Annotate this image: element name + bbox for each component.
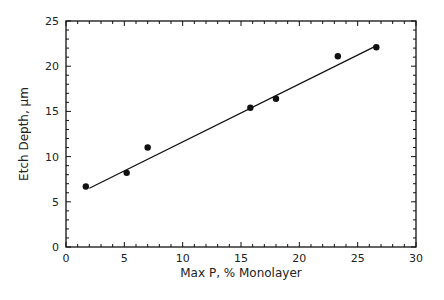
data-point <box>247 105 253 111</box>
data-point <box>335 53 341 59</box>
data-point <box>83 183 89 189</box>
x-tick-label: 25 <box>351 252 365 265</box>
x-tick-labels: 051015202530 <box>63 252 424 265</box>
fit-line <box>89 46 375 188</box>
data-point <box>144 144 150 150</box>
x-tick-label: 0 <box>63 252 70 265</box>
axis-ticks <box>66 21 416 247</box>
x-tick-label: 15 <box>234 252 248 265</box>
chart: 051015202530 0510152025 Max P, % Monolay… <box>0 0 444 300</box>
data-point <box>273 96 279 102</box>
x-tick-label: 5 <box>121 252 128 265</box>
plot-frame <box>66 21 416 247</box>
y-tick-label: 20 <box>45 60 59 73</box>
y-tick-labels: 0510152025 <box>45 15 59 254</box>
data-point <box>123 170 129 176</box>
data-point <box>373 44 379 50</box>
y-tick-label: 25 <box>45 15 59 28</box>
y-tick-label: 0 <box>52 241 59 254</box>
x-tick-label: 10 <box>176 252 190 265</box>
x-tick-label: 20 <box>292 252 306 265</box>
x-axis-label: Max P, % Monolayer <box>180 266 302 280</box>
y-tick-label: 5 <box>52 196 59 209</box>
y-axis-label: Etch Depth, μm <box>17 87 31 181</box>
y-tick-label: 10 <box>45 151 59 164</box>
regression-line <box>89 46 375 188</box>
plot-area <box>66 21 416 247</box>
x-tick-label: 30 <box>409 252 423 265</box>
y-tick-label: 15 <box>45 105 59 118</box>
